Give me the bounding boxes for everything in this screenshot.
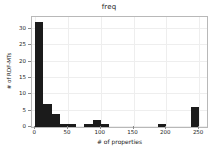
x-tick-label: 50 <box>64 129 71 135</box>
x-tick-label: 150 <box>127 129 138 135</box>
y-tick-label: 15 <box>19 74 26 80</box>
histogram-bar <box>101 124 109 127</box>
x-tick-label: 200 <box>160 129 171 135</box>
y-axis-label: # of RDF-MTs <box>6 53 12 90</box>
x-tick-label: 100 <box>95 129 106 135</box>
y-tick-mark <box>28 110 31 111</box>
chart-title: freq <box>0 3 218 11</box>
histogram-bar <box>43 104 51 127</box>
y-tick-label: 5 <box>23 107 27 113</box>
y-tick-label: 30 <box>19 25 26 31</box>
y-tick-mark <box>28 77 31 78</box>
x-tick-label: 250 <box>193 129 204 135</box>
y-tick-mark <box>28 93 31 94</box>
y-tick-label: 0 <box>23 123 27 129</box>
y-tick-mark <box>28 44 31 45</box>
histogram-bar <box>84 124 92 127</box>
y-tick-mark <box>28 28 31 29</box>
histogram-figure: freq 050100150200250051015202530 # of pr… <box>0 0 218 154</box>
histogram-bar <box>35 22 43 127</box>
x-axis-label: # of properties <box>31 138 208 145</box>
histogram-bar <box>52 114 60 127</box>
histogram-bar <box>68 124 76 127</box>
x-tick-label: 0 <box>33 129 37 135</box>
bars-layer <box>32 17 207 127</box>
y-tick-label: 25 <box>19 41 26 47</box>
y-tick-mark <box>28 126 31 127</box>
y-tick-label: 20 <box>19 58 26 64</box>
y-tick-label: 10 <box>19 90 26 96</box>
plot-area <box>31 16 208 128</box>
histogram-bar <box>191 107 199 127</box>
y-tick-mark <box>28 61 31 62</box>
